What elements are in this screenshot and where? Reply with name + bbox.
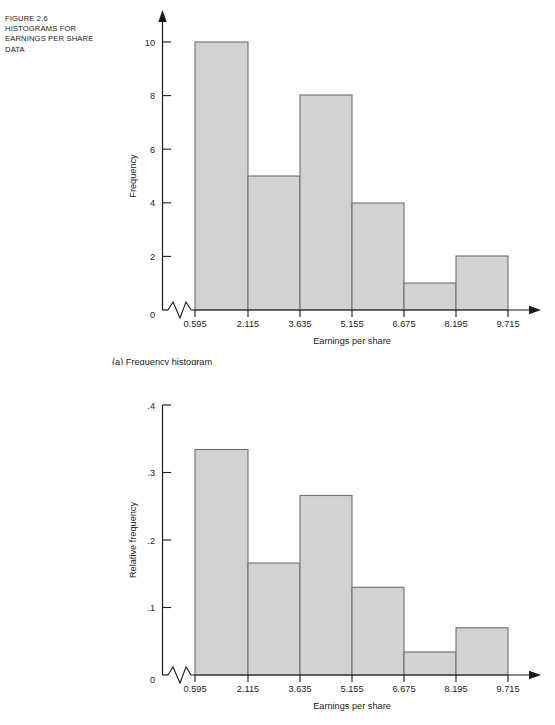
y-tick-labels: 10 8 6 4 2 0 (145, 38, 155, 321)
bar-bin-5 (404, 283, 456, 310)
y-tick-label-02: .2 (147, 536, 155, 546)
x-tick-label-6675: 6.675 (393, 319, 416, 329)
y-tick-label-6: 6 (150, 145, 155, 155)
x-tick-label-5155: 5.155 (341, 319, 364, 329)
y-axis (158, 10, 171, 310)
bar-bin-3 (300, 496, 352, 676)
relative-frequency-histogram-svg: .4 .3 .2 .1 0 Relative frequency 0.595 2… (0, 360, 555, 725)
bar-bin-3 (300, 95, 352, 310)
x-tick-label-0595: 0.595 (184, 684, 207, 694)
x-tick-label-8195: 8.195 (445, 684, 468, 694)
bar-bin-4 (352, 587, 404, 675)
x-tick-labels: 0.595 2.115 3.635 5.155 6.675 8.195 9.71… (184, 684, 520, 694)
x-tick-label-6675: 6.675 (393, 684, 416, 694)
y-tick-label-10: 10 (145, 38, 155, 48)
bar-group (195, 42, 508, 310)
y-tick-label-0: 0 (150, 310, 155, 320)
x-tick-label-9715: 9.715 (497, 684, 520, 694)
y-tick-label-03: .3 (147, 468, 155, 478)
x-tick-label-3635: 3.635 (289, 319, 312, 329)
bar-bin-1 (195, 450, 248, 676)
y-axis-title: Relative frequency (128, 502, 138, 578)
frequency-histogram-chart: 10 8 6 4 2 0 Frequency 0.595 2.1 (0, 0, 555, 365)
y-tick-label-2: 2 (150, 252, 155, 262)
x-axis-title: Earnings per share (313, 336, 391, 346)
bar-bin-1 (195, 42, 248, 310)
y-tick-label-04: .4 (147, 401, 155, 411)
y-tick-label-4: 4 (150, 198, 155, 208)
y-tick-label-01: .1 (147, 603, 155, 613)
x-axis-title: Earnings per share (313, 701, 391, 711)
y-tick-label-8: 8 (150, 91, 155, 101)
frequency-histogram-svg: 10 8 6 4 2 0 Frequency 0.595 2.1 (0, 0, 555, 365)
y-tick-labels: .4 .3 .2 .1 0 (147, 401, 155, 686)
x-tick-labels: 0.595 2.115 3.635 5.155 6.675 8.195 9.71… (184, 319, 520, 329)
bar-bin-2 (248, 176, 300, 310)
relative-frequency-histogram-chart: .4 .3 .2 .1 0 Relative frequency 0.595 2… (0, 360, 555, 725)
bar-bin-6 (456, 256, 508, 310)
bar-bin-6 (456, 628, 508, 675)
x-tick-label-3635: 3.635 (289, 684, 312, 694)
bar-bin-2 (248, 563, 300, 675)
y-tick-label-0: 0 (150, 675, 155, 685)
x-tick-label-8195: 8.195 (445, 319, 468, 329)
y-axis-title: Frequency (128, 154, 138, 198)
x-tick-label-2115: 2.115 (237, 319, 259, 329)
bar-bin-5 (404, 652, 456, 675)
x-tick-label-2115: 2.115 (237, 684, 259, 694)
bar-bin-4 (352, 203, 404, 310)
x-tick-label-9715: 9.715 (497, 319, 520, 329)
bar-group (195, 450, 508, 676)
x-tick-label-5155: 5.155 (341, 684, 364, 694)
x-tick-label-0595: 0.595 (184, 319, 207, 329)
y-axis (163, 405, 172, 675)
